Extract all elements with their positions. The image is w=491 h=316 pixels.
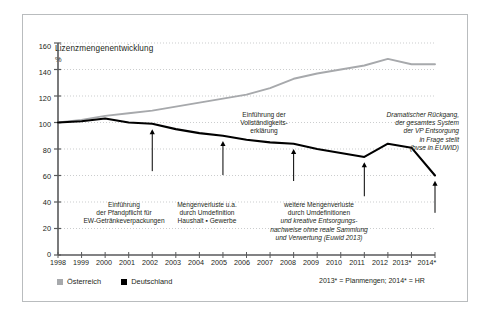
annotation-line: erklärung (209, 127, 319, 135)
annotation-line-italic: in Frage stellt (319, 136, 459, 144)
legend-label-deutschland: Deutschland (131, 277, 172, 286)
annotation-line-italic: nachweise ohne reale Sammlung (229, 226, 409, 234)
legend-label-osterreich: Österreich (67, 277, 101, 286)
legend: Österreich Deutschland (57, 277, 172, 286)
annotation-line: Einführung der (209, 111, 319, 119)
annotation-line: durch Umdefinitionen (229, 209, 409, 217)
annotation-vollstaendigkeitserklaerung: Einführung der Vollständigkeits- erkläru… (209, 111, 319, 136)
annotation-weitere-mengenverluste: weitere Mengenverluste durch Umdefinitio… (229, 201, 409, 242)
legend-swatch-osterreich (57, 279, 63, 285)
annotation-line-italic: der VP Entsorgung (319, 127, 459, 135)
annotation-line-italic: und kreative Entsorgungs- (229, 217, 409, 225)
annotation-line-italic: und Verwertung (Euwid 2013) (229, 234, 409, 242)
annotation-line-italic: Dramatischer Rückgang, (319, 111, 459, 119)
annotation-line: weitere Mengenverluste (229, 201, 409, 209)
annotation-line: Vollständigkeits- (209, 119, 319, 127)
annotation-dramatischer-rueckgang: Dramatischer Rückgang, der gesamtes Syst… (319, 111, 459, 152)
chart-frame: Lizenzmengenentwicklung % 160 140 120 10… (22, 14, 468, 302)
plot-canvas (23, 15, 469, 303)
legend-item-osterreich: Österreich (57, 277, 103, 286)
annotation-line-italic: (bvse in EUWID) (319, 144, 459, 152)
legend-swatch-deutschland (121, 279, 127, 285)
legend-item-deutschland: Deutschland (121, 277, 172, 286)
annotation-line-italic: der gesamtes System (319, 119, 459, 127)
chart-footnote: 2013* = Planmengen; 2014* = HR (319, 277, 425, 284)
